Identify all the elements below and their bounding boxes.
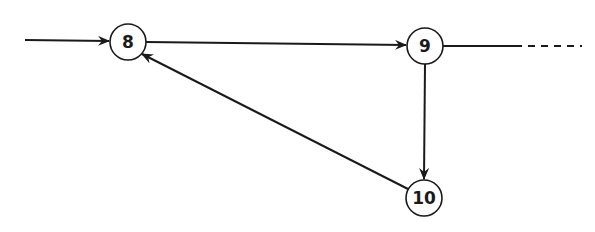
- edge-entry-to-8: [25, 40, 109, 41]
- node-10: 10: [406, 180, 442, 216]
- node-label: 9: [419, 36, 431, 56]
- edge-8-to-9: [146, 42, 406, 45]
- node-8: 8: [110, 24, 146, 60]
- flow-diagram: 8 9 10: [0, 0, 595, 232]
- node-9: 9: [407, 28, 443, 64]
- node-label: 8: [122, 32, 134, 52]
- edge-10-to-8: [142, 54, 408, 189]
- edge-9-to-10: [424, 64, 425, 179]
- node-label: 10: [412, 188, 436, 208]
